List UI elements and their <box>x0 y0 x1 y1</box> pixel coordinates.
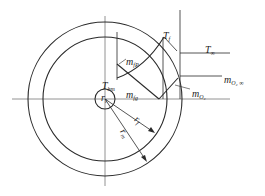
r-m-arrowhead <box>141 155 147 162</box>
m-fp-leader <box>119 59 126 64</box>
r-f-arrowhead <box>148 127 155 133</box>
label-r-l: rl <box>101 88 107 104</box>
m-o2-leader <box>175 85 190 89</box>
label-t-f: Tf <box>163 26 170 42</box>
oxygen-fraction-line <box>159 78 178 99</box>
temperature-curve <box>117 37 164 78</box>
label-t-inf: T∞ <box>205 40 215 56</box>
label-m-fp: mfP <box>126 52 139 68</box>
label-m-fg: mfg <box>126 85 138 101</box>
fuel-fraction-line <box>117 64 159 99</box>
droplet-combustion-diagram: Tf T∞ mfP Tbm mfg rl mO₂ ∞ mO₂ rf rm <box>0 0 265 196</box>
label-m-o2-inf: mO₂ ∞ <box>224 70 243 86</box>
label-m-o2: mO₂ <box>192 84 206 100</box>
